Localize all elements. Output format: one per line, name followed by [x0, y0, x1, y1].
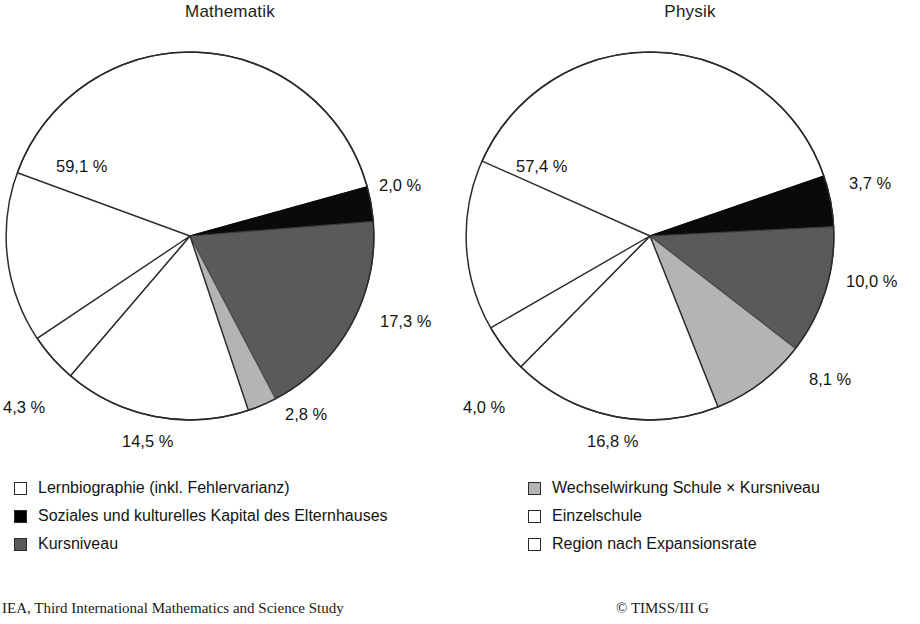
legend-swatch-light-gray-icon [528, 482, 541, 495]
legend-column-left: Lernbiographie (inkl. Fehlervarianz) Soz… [14, 474, 388, 558]
footer-source-text: IEA, Third International Mathematics and… [2, 600, 344, 617]
pct-label-soziales-phys: 3,7 % [849, 174, 891, 193]
legend-swatch-dark-gray-icon [14, 538, 27, 551]
legend-label: Region nach Expansionsrate [552, 535, 757, 553]
pie-chart-physik: Physik 57,4 % 3,7 % 10,0 % 8,1 % 16,8 [460, 0, 920, 470]
legend-item-wechselwirkung[interactable]: Wechselwirkung Schule × Kursniveau [528, 474, 820, 502]
pct-label-lernbiographie-math: 59,1 % [56, 157, 107, 176]
footer-copyright-text: © TIMSS/III G [616, 600, 709, 617]
legend-item-einzelschule[interactable]: Einzelschule [528, 502, 820, 530]
pct-label-kursniveau-phys: 10,0 % [846, 272, 897, 291]
legend-item-kursniveau[interactable]: Kursniveau [14, 530, 388, 558]
legend-item-soziales-kapital[interactable]: Soziales und kulturelles Kapital des Elt… [14, 502, 388, 530]
legend-item-lernbiographie[interactable]: Lernbiographie (inkl. Fehlervarianz) [14, 474, 388, 502]
legend-column-right: Wechselwirkung Schule × Kursniveau Einze… [528, 474, 820, 558]
legend-item-region[interactable]: Region nach Expansionsrate [528, 530, 820, 558]
charts-container: Mathematik 59,1 % 2,0 % 17,3 % 2 [0, 0, 920, 470]
pct-label-einzelschule-math: 14,5 % [122, 432, 173, 451]
pct-label-wechselwirkung-math: 2,8 % [285, 405, 327, 424]
legend-label: Wechselwirkung Schule × Kursniveau [552, 479, 820, 497]
footer: IEA, Third International Mathematics and… [0, 600, 920, 624]
legend: Lernbiographie (inkl. Fehlervarianz) Soz… [0, 474, 920, 569]
legend-swatch-white-icon [528, 538, 541, 551]
legend-swatch-black-icon [14, 510, 27, 523]
legend-label: Soziales und kulturelles Kapital des Elt… [38, 507, 388, 525]
pct-label-kursniveau-math: 17,3 % [380, 312, 431, 331]
pct-label-region-math: 4,3 % [3, 398, 45, 417]
legend-label: Lernbiographie (inkl. Fehlervarianz) [38, 479, 290, 497]
pct-label-soziales-math: 2,0 % [379, 176, 421, 195]
pct-label-region-phys: 4,0 % [463, 398, 505, 417]
pct-label-lernbiographie-phys: 57,4 % [516, 157, 567, 176]
pie-chart-mathematik: Mathematik 59,1 % 2,0 % 17,3 % 2 [0, 0, 460, 470]
pct-label-wechselwirkung-phys: 8,1 % [809, 370, 851, 389]
legend-label: Kursniveau [38, 535, 118, 553]
legend-swatch-white-icon [528, 510, 541, 523]
pie-svg-physik [460, 0, 920, 470]
pie-svg-mathematik [0, 0, 460, 470]
legend-swatch-white-icon [14, 482, 27, 495]
legend-label: Einzelschule [552, 507, 642, 525]
pct-label-einzelschule-phys: 16,8 % [587, 432, 638, 451]
